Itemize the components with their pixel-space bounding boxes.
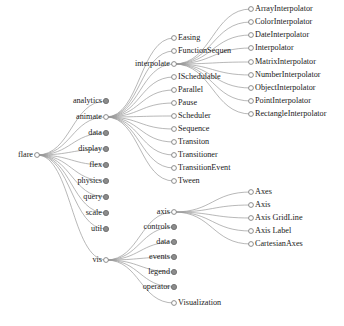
node-open-icon[interactable] [249, 190, 254, 195]
tree-node-Axis[interactable]: Axis [249, 200, 271, 209]
tree-node-DateInterpolator[interactable]: DateInterpolator [249, 30, 310, 39]
node-open-icon[interactable] [172, 62, 177, 67]
node-open-icon[interactable] [249, 73, 254, 78]
node-closed-icon[interactable] [103, 178, 108, 183]
node-open-icon[interactable] [172, 49, 177, 54]
tree-node-query[interactable]: query [83, 192, 108, 201]
node-open-icon[interactable] [172, 88, 177, 93]
node-label: legend [148, 267, 170, 276]
tree-node-MatrixInterpolator[interactable]: MatrixInterpolator [249, 57, 317, 66]
node-open-icon[interactable] [249, 7, 254, 12]
node-open-icon[interactable] [249, 60, 254, 65]
tree-node-Visualization[interactable]: Visualization [172, 298, 222, 307]
node-open-icon[interactable] [104, 258, 109, 263]
tree-node-vis-data[interactable]: data [156, 237, 176, 246]
node-open-icon[interactable] [249, 112, 254, 117]
tree-node-scale[interactable]: scale [86, 208, 109, 217]
node-closed-icon[interactable] [103, 226, 108, 231]
tree-node-Scheduler[interactable]: Scheduler [172, 111, 211, 120]
tree-node-operator[interactable]: operator [143, 282, 177, 291]
tree-node-ISchedulable[interactable]: ISchedulable [172, 72, 222, 81]
tree-node-FunctionSequence[interactable]: FunctionSequen [172, 46, 232, 55]
tree-node-Axes[interactable]: Axes [249, 187, 272, 196]
node-open-icon[interactable] [249, 20, 254, 25]
tree-node-PointInterpolator[interactable]: PointInterpolator [249, 96, 312, 105]
node-open-icon[interactable] [249, 242, 254, 247]
tree-node-display[interactable]: display [78, 144, 108, 153]
tree-node-Easing[interactable]: Easing [172, 33, 201, 42]
node-closed-icon[interactable] [103, 210, 108, 215]
tree-node-interpolate[interactable]: interpolate [135, 59, 176, 68]
node-closed-icon[interactable] [103, 194, 108, 199]
tree-link [106, 64, 174, 117]
tree-node-events[interactable]: events [149, 252, 177, 261]
tree-node-physics[interactable]: physics [77, 176, 108, 185]
tree-node-NumberInterpolator[interactable]: NumberInterpolator [249, 70, 321, 79]
node-label: FunctionSequen [178, 46, 231, 55]
node-label: Axes [255, 187, 272, 196]
node-closed-icon[interactable] [103, 130, 108, 135]
tree-node-vis[interactable]: vis [92, 255, 108, 264]
tree-node-controls[interactable]: controls [144, 222, 177, 231]
tree-node-animate[interactable]: animate [76, 112, 108, 121]
tree-node-analytics[interactable]: analytics [73, 96, 109, 105]
node-open-icon[interactable] [172, 127, 177, 132]
tree-node-Interpolator[interactable]: Interpolator [249, 43, 294, 52]
tree-node-legend[interactable]: legend [148, 267, 176, 276]
tree-node-axis[interactable]: axis [157, 207, 177, 216]
node-open-icon[interactable] [172, 166, 177, 171]
node-open-icon[interactable] [172, 140, 177, 145]
tree-node-Sequence[interactable]: Sequence [172, 124, 210, 133]
node-open-icon[interactable] [249, 33, 254, 38]
node-closed-icon[interactable] [171, 224, 176, 229]
node-open-icon[interactable] [172, 75, 177, 80]
tree-node-Pause[interactable]: Pause [172, 98, 198, 107]
node-open-icon[interactable] [172, 36, 177, 41]
node-open-icon[interactable] [249, 46, 254, 51]
node-open-icon[interactable] [104, 115, 109, 120]
tree-node-Parallel[interactable]: Parallel [172, 85, 204, 94]
node-open-icon[interactable] [249, 86, 254, 91]
node-open-icon[interactable] [172, 210, 177, 215]
tree-node-flex[interactable]: flex [89, 160, 108, 169]
tree-node-RectangleInterpolator[interactable]: RectangleInterpolator [249, 109, 327, 118]
node-open-icon[interactable] [249, 229, 254, 234]
tree-node-Transitioner[interactable]: Transitioner [172, 150, 218, 159]
node-closed-icon[interactable] [103, 146, 108, 151]
tree-node-AxisLabel[interactable]: Axis Label [249, 226, 292, 235]
tree-node-ColorInterpolator[interactable]: ColorInterpolator [249, 17, 313, 26]
node-label: scale [86, 208, 103, 217]
node-closed-icon[interactable] [103, 162, 108, 167]
node-label: operator [143, 282, 171, 291]
tree-node-CartesianAxes[interactable]: CartesianAxes [249, 239, 303, 248]
node-open-icon[interactable] [249, 99, 254, 104]
node-closed-icon[interactable] [171, 239, 176, 244]
node-open-icon[interactable] [172, 301, 177, 306]
tree-node-Tween[interactable]: Tween [172, 176, 200, 185]
tree-node-ArrayInterpolator[interactable]: ArrayInterpolator [249, 4, 313, 13]
node-open-icon[interactable] [172, 101, 177, 106]
node-label: DateInterpolator [255, 30, 309, 39]
node-closed-icon[interactable] [103, 98, 108, 103]
node-open-icon[interactable] [172, 114, 177, 119]
node-label: Tween [178, 176, 200, 185]
node-closed-icon[interactable] [171, 254, 176, 259]
tree-link [106, 117, 174, 168]
tree-node-flare[interactable]: flare [18, 150, 39, 159]
node-label: flex [89, 160, 102, 169]
tree-node-TransitionEvent[interactable]: TransitionEvent [172, 163, 232, 172]
tree-node-data[interactable]: data [88, 128, 108, 137]
node-open-icon[interactable] [172, 153, 177, 158]
tree-node-Transiton[interactable]: Transiton [172, 137, 209, 146]
node-closed-icon[interactable] [171, 284, 176, 289]
node-closed-icon[interactable] [171, 269, 176, 274]
node-open-icon[interactable] [249, 203, 254, 208]
node-open-icon[interactable] [35, 153, 40, 158]
node-open-icon[interactable] [172, 179, 177, 184]
node-label: Visualization [178, 298, 221, 307]
tree-node-ObjectInterpolator[interactable]: ObjectInterpolator [249, 83, 316, 92]
node-label: Easing [178, 33, 200, 42]
tree-node-AxisGridLine[interactable]: Axis GridLine [249, 213, 303, 222]
tree-node-util[interactable]: util [91, 224, 109, 233]
node-open-icon[interactable] [249, 216, 254, 221]
